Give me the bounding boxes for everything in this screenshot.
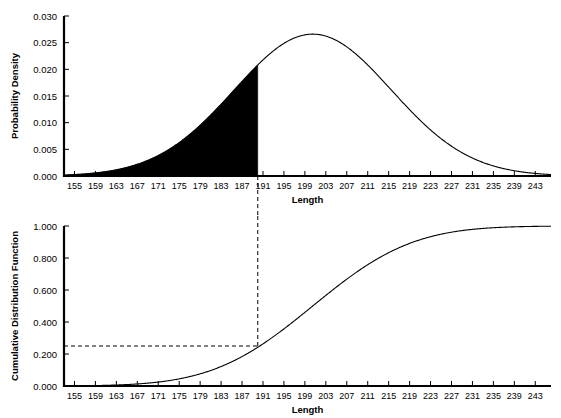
x-tick-label: 243	[528, 181, 543, 191]
x-tick-label: 223	[423, 181, 438, 191]
x-tick-label: 159	[88, 181, 103, 191]
x-tick-label: 163	[109, 391, 124, 401]
y-tick-label: 0.400	[33, 317, 57, 328]
x-tick-label: 187	[235, 391, 250, 401]
x-tick-label: 207	[339, 391, 354, 401]
x-tick-label: 187	[235, 181, 250, 191]
x-tick-label: 231	[465, 391, 480, 401]
y-tick-label: 1.000	[33, 221, 57, 232]
x-tick-label: 183	[214, 391, 229, 401]
x-tick-label: 175	[172, 181, 187, 191]
x-tick-label: 179	[193, 391, 208, 401]
y-tick-label: 0.600	[33, 285, 57, 296]
y-tick-label: 0.005	[33, 144, 57, 155]
x-tick-label: 223	[423, 391, 438, 401]
x-tick-label: 235	[486, 181, 501, 191]
y-tick-label: 0.025	[33, 37, 57, 48]
x-tick-label: 171	[151, 391, 166, 401]
x-tick-label: 239	[507, 391, 522, 401]
x-tick-label: 175	[172, 391, 187, 401]
x-tick-label: 207	[339, 181, 354, 191]
x-tick-label: 167	[130, 391, 145, 401]
x-tick-label: 195	[276, 391, 291, 401]
x-tick-label: 215	[381, 181, 396, 191]
x-tick-label: 219	[402, 181, 417, 191]
x-tick-label: 211	[361, 181, 375, 191]
x-tick-label: 171	[151, 181, 166, 191]
x-tick-label: 195	[276, 181, 291, 191]
x-tick-label: 159	[88, 391, 103, 401]
x-tick-label: 231	[465, 181, 480, 191]
cdf-x-axis-label: Length	[292, 404, 324, 415]
x-tick-label: 155	[67, 181, 82, 191]
figure-background	[0, 0, 561, 418]
y-tick-label: 0.000	[33, 171, 57, 182]
x-tick-label: 215	[381, 391, 396, 401]
x-tick-label: 235	[486, 391, 501, 401]
x-tick-label: 203	[318, 391, 333, 401]
pdf-y-axis-label: Probability Density	[9, 52, 20, 139]
x-tick-label: 155	[67, 391, 82, 401]
x-tick-label: 183	[214, 181, 229, 191]
statistics-figure: 1551591631671711751791831871911951992032…	[0, 0, 561, 418]
x-tick-label: 239	[507, 181, 522, 191]
pdf-x-tick-labels: 1551591631671711751791831871911951992032…	[67, 181, 543, 191]
x-tick-label: 243	[528, 391, 543, 401]
cdf-x-tick-labels: 1551591631671711751791831871911951992032…	[67, 391, 543, 401]
y-tick-label: 0.015	[33, 91, 57, 102]
x-tick-label: 227	[444, 391, 459, 401]
y-tick-label: 0.010	[33, 117, 57, 128]
x-tick-label: 199	[297, 391, 312, 401]
y-tick-label: 0.800	[33, 253, 57, 264]
x-tick-label: 191	[255, 391, 270, 401]
cdf-y-axis-label: Cumulative Distribution Function	[9, 231, 20, 381]
y-tick-label: 0.030	[33, 11, 57, 22]
x-tick-label: 167	[130, 181, 145, 191]
x-tick-label: 203	[318, 181, 333, 191]
x-tick-label: 211	[361, 391, 375, 401]
y-tick-label: 0.200	[33, 349, 57, 360]
x-tick-label: 163	[109, 181, 124, 191]
y-tick-label: 0.000	[33, 381, 57, 392]
pdf-x-axis-label: Length	[292, 194, 324, 205]
y-tick-label: 0.020	[33, 64, 57, 75]
figure-canvas: 1551591631671711751791831871911951992032…	[0, 0, 561, 418]
x-tick-label: 199	[297, 181, 312, 191]
x-tick-label: 227	[444, 181, 459, 191]
x-tick-label: 179	[193, 181, 208, 191]
x-tick-label: 219	[402, 391, 417, 401]
